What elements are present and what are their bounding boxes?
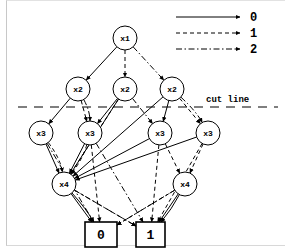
legend-edge-0: 0 <box>176 11 257 25</box>
node-x3-n3a[interactable]: x3 <box>29 121 53 145</box>
edge-n2c-to-n3c-val0 <box>163 101 169 122</box>
edge-n4a-to-t0-val0 <box>72 193 94 222</box>
node-x4-n4b[interactable]: x4 <box>173 172 197 196</box>
edge-n2c-to-n3d-val1 <box>180 98 201 123</box>
node-label: x2 <box>167 85 177 94</box>
edge-n2a-to-n3b-val2 <box>84 100 90 121</box>
legend-edge-1: 1 <box>176 27 257 41</box>
edge-n3d-to-n4b-val1 <box>190 144 203 173</box>
edge-n1-to-n2a-val0 <box>86 47 117 80</box>
edge-n3b-to-t1-val2 <box>96 143 143 222</box>
node-x4-n4a[interactable]: x4 <box>52 172 76 196</box>
terminal-node-1[interactable]: 1 <box>136 222 165 247</box>
terminals-layer: 01 <box>85 222 165 247</box>
mdd-diagram: cut line x1x2x2x2x3x3x3x3x4x4 01 012 <box>0 0 285 251</box>
legend-label: 2 <box>250 43 257 57</box>
terminal-label: 0 <box>97 228 105 243</box>
cut-line-label: cut line <box>206 95 249 105</box>
edge-n3c-to-n4b-val1 <box>165 144 179 173</box>
edge-n2a-to-n3a-val0 <box>49 98 71 124</box>
node-x2-n2a[interactable]: x2 <box>66 77 90 101</box>
legend-label: 0 <box>250 11 257 25</box>
legend-label: 1 <box>250 27 257 41</box>
node-label: x2 <box>73 85 83 94</box>
node-x3-n3b[interactable]: x3 <box>78 121 102 145</box>
node-label: x4 <box>59 180 69 189</box>
edges-layer <box>46 47 203 226</box>
node-x2-n2b[interactable]: x2 <box>113 77 137 101</box>
edge-n3b-to-n4a-val0 <box>69 144 84 174</box>
node-label: x3 <box>36 129 46 138</box>
node-label: x2 <box>120 85 130 94</box>
terminal-label: 1 <box>147 228 155 243</box>
node-label: x4 <box>180 180 190 189</box>
node-x3-n3c[interactable]: x3 <box>148 121 172 145</box>
node-label: x1 <box>120 34 130 43</box>
terminal-node-0[interactable]: 0 <box>85 222 117 247</box>
edge-n2b-to-n3b-val0 <box>97 98 117 123</box>
edge-n2b-to-n3c-val2 <box>132 98 152 123</box>
node-label: x3 <box>85 129 95 138</box>
edge-n3c-to-t1-val1 <box>152 145 159 222</box>
node-x2-n2c[interactable]: x2 <box>160 77 184 101</box>
cut-line-group: cut line <box>18 95 278 107</box>
diagram-canvas: cut line x1x2x2x2x3x3x3x3x4x4 01 012 <box>0 0 285 251</box>
node-label: x3 <box>155 129 165 138</box>
edge-n1-to-n2c-val2 <box>133 47 164 80</box>
edge-n4a-to-t1-val1 <box>74 190 136 226</box>
node-x3-n3d[interactable]: x3 <box>196 121 220 145</box>
node-x1-n1[interactable]: x1 <box>113 26 137 50</box>
node-label: x3 <box>203 129 213 138</box>
edge-n2c-to-n3d-val2 <box>181 97 202 122</box>
legend-edge-2: 2 <box>176 43 257 57</box>
legend: 012 <box>176 11 257 57</box>
